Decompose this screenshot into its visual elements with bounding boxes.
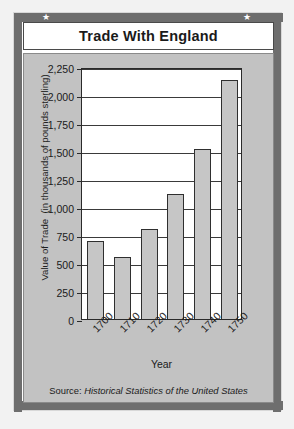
chart-title: Trade With England (79, 28, 218, 44)
y-tick-label: 250 (56, 287, 74, 299)
bar (167, 194, 184, 319)
y-tick-label: 1,000 (48, 203, 74, 215)
y-tick-label: 750 (56, 231, 74, 243)
y-tick-label: 500 (56, 259, 74, 271)
bar (114, 257, 131, 319)
chart-card: ★ ★ Trade With England Value of Trade (i… (13, 12, 282, 411)
star-icon: ★ (41, 13, 50, 22)
bar (194, 149, 211, 319)
y-tick-label: 2,250 (48, 63, 74, 75)
bar (221, 80, 238, 319)
decorative-frame-left (14, 13, 22, 412)
y-tick-mark (77, 321, 82, 322)
y-tick-label: 1,250 (48, 175, 74, 187)
source-title: Historical Statistics of the United Stat… (84, 385, 248, 396)
y-tick-label: 2,000 (48, 91, 74, 103)
chart-page: ★ ★ Trade With England Value of Trade (i… (0, 0, 294, 429)
x-axis-title: Year (81, 358, 242, 370)
source-prefix: Source: (49, 385, 84, 396)
chart-panel: Value of Trade (in thousands of pounds s… (23, 53, 274, 403)
plot-area: 02505007501,0001,2501,5001,7502,0002,250 (81, 68, 242, 320)
source-note: Source: Historical Statistics of the Uni… (24, 385, 273, 396)
y-tick-label: 1,750 (48, 119, 74, 131)
chart-title-box: Trade With England (23, 22, 274, 50)
bar-series (82, 69, 241, 319)
y-tick-label: 0 (68, 315, 74, 327)
bar (87, 241, 104, 319)
bar (141, 229, 158, 319)
decorative-frame-right (273, 13, 281, 412)
star-icon: ★ (242, 13, 251, 22)
y-tick-label: 1,500 (48, 147, 74, 159)
